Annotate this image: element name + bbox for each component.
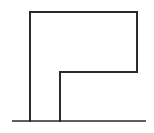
inverted-l-shape-outline <box>30 12 137 121</box>
diagram-canvas <box>0 0 154 133</box>
diagram-svg <box>0 0 154 133</box>
